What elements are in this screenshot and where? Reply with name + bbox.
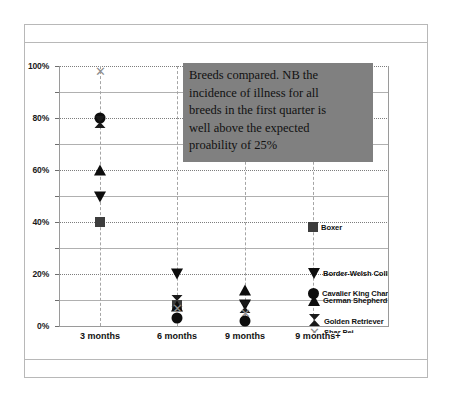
ytick-mark-70 bbox=[55, 144, 59, 145]
point-cavalier-9-months bbox=[240, 316, 251, 327]
header-band bbox=[24, 24, 428, 43]
ytick-mark-100 bbox=[55, 66, 59, 67]
ytick-label-40: 40% bbox=[3, 217, 49, 227]
point-golden-retriever-3-months bbox=[94, 114, 107, 132]
annotation-line-4: well above the expected bbox=[189, 120, 368, 138]
ytick-label-80: 80% bbox=[3, 113, 49, 123]
annotation-line-2: incidence of illness for all bbox=[189, 85, 368, 103]
chart-page: 100% 80% 60% 40% 20% 0% 3 months 6 month… bbox=[0, 0, 456, 408]
ytick-label-0: 0% bbox=[3, 321, 49, 331]
triangle-down-icon bbox=[308, 268, 320, 279]
legend-label-border-welsh-collie: Border-Welsh Collie bbox=[323, 269, 388, 278]
x-cross-icon: ✕ bbox=[308, 326, 321, 333]
legend-item-shar-pei: ✕ Shar Pei bbox=[308, 326, 354, 333]
ytick-label-20: 20% bbox=[3, 269, 49, 279]
plot-border-right bbox=[388, 66, 389, 326]
axis-line-left bbox=[59, 66, 60, 326]
category-line-6-months bbox=[177, 66, 178, 326]
ytick-mark-90 bbox=[55, 92, 59, 93]
annotation-line-5: proability of 25% bbox=[189, 137, 368, 155]
legend: Boxer Border-Welsh Collie Cavalier King … bbox=[300, 215, 388, 333]
legend-label-golden-retriever: Golden Retriever bbox=[324, 317, 384, 326]
xtick-label-3-months: 3 months bbox=[80, 331, 120, 341]
ytick-mark-60 bbox=[55, 170, 59, 171]
square-icon bbox=[308, 222, 318, 232]
legend-label-shar-pei: Shar Pei bbox=[324, 328, 354, 333]
ytick-mark-10 bbox=[55, 300, 59, 301]
legend-label-boxer: Boxer bbox=[321, 223, 342, 232]
point-shar-pei-3-months: ✕ bbox=[94, 65, 107, 78]
annotation-line-1: Breeds compared. NB the bbox=[189, 67, 368, 85]
point-german-shepherd-3-months bbox=[94, 165, 106, 176]
ytick-mark-80 bbox=[55, 118, 59, 119]
footer-band bbox=[24, 359, 428, 378]
gridline-60 bbox=[59, 170, 389, 171]
point-border-welsh-collie-6-months bbox=[171, 269, 183, 280]
legend-label-german-shepherd-alsatian: German Shepherd (Alsatian bbox=[323, 296, 388, 305]
legend-item-border-welsh-collie: Border-Welsh Collie bbox=[308, 268, 388, 279]
legend-item-boxer: Boxer bbox=[308, 222, 342, 232]
annotation-callout: Breeds compared. NB the incidence of ill… bbox=[183, 63, 373, 162]
xtick-label-9-months: 9 months bbox=[225, 331, 265, 341]
annotation-line-3: breeds in the first quarter is bbox=[189, 102, 368, 120]
point-german-shepherd-9-months bbox=[239, 285, 251, 296]
point-cavalier-6-months bbox=[172, 313, 183, 324]
xtick-label-6-months: 6 months bbox=[157, 331, 197, 341]
triangle-up-icon bbox=[308, 295, 320, 306]
legend-item-german-shepherd-alsatian: German Shepherd (Alsatian bbox=[308, 295, 388, 306]
point-border-welsh-collie-3-months bbox=[94, 192, 106, 203]
ytick-mark-50 bbox=[55, 196, 59, 197]
gridline-50 bbox=[59, 196, 389, 197]
ytick-mark-0 bbox=[55, 326, 59, 327]
point-boxer-3-months bbox=[95, 217, 105, 227]
ytick-label-100: 100% bbox=[3, 61, 49, 71]
ytick-mark-40 bbox=[55, 222, 59, 223]
ytick-mark-30 bbox=[55, 248, 59, 249]
ytick-mark-20 bbox=[55, 274, 59, 275]
ytick-label-60: 60% bbox=[3, 165, 49, 175]
